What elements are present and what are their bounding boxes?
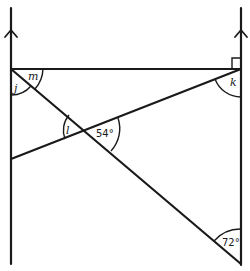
diagonal-line-top-left-to-bottom-right bbox=[11, 69, 241, 264]
label-m: m bbox=[28, 70, 38, 83]
geometry-diagram: m j k l 54° 72° bbox=[0, 0, 250, 271]
label-angle-54: 54° bbox=[96, 128, 114, 139]
label-l: l bbox=[66, 124, 70, 137]
label-k: k bbox=[230, 76, 237, 89]
diagonal-line-left-to-top-right bbox=[11, 69, 241, 159]
label-angle-72: 72° bbox=[222, 237, 240, 248]
right-angle-marker-icon bbox=[232, 58, 241, 69]
angle-arc-k bbox=[215, 79, 241, 97]
